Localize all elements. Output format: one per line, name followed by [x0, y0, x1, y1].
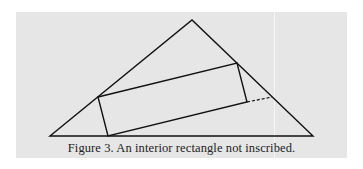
dashed-extension-line: [247, 97, 272, 102]
interior-rectangle: [98, 63, 247, 136]
figure-caption: Figure 3. An interior rectangle not insc…: [16, 141, 347, 156]
